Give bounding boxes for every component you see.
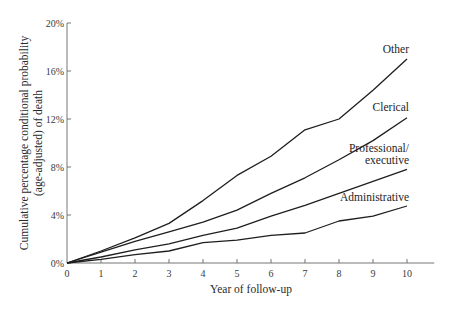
x-tick-label: 7 [303,268,308,279]
x-tick-label: 9 [371,268,376,279]
series-lines [67,59,407,263]
series-label: Clerical [373,101,409,113]
series-line-professional-executive [67,169,407,263]
y-axis-title-line-2: (age-adjusted) of death [32,90,45,196]
y-tick-label: 0% [51,258,64,269]
x-tick-label: 2 [133,268,138,279]
x-tick-label: 6 [269,268,274,279]
x-tick-label: 0 [65,268,70,279]
x-axis-title: Year of follow-up [210,283,292,296]
y-axis-title: Cumulative percentage conditional probab… [18,36,45,251]
series-label: Other [383,43,409,55]
line-chart: 0%4%8%12%16%20% 012345678910 OtherCleric… [0,0,449,309]
y-axis-title-line-1: Cumulative percentage conditional probab… [18,36,31,251]
y-tick-label: 4% [51,210,64,221]
x-tick-label: 10 [402,268,412,279]
x-tick-label: 1 [99,268,104,279]
y-tick-label: 8% [51,162,64,173]
y-axis: 0%4%8%12%16%20% [46,18,71,269]
y-tick-label: 16% [46,66,64,77]
x-tick-label: 4 [201,268,206,279]
series-label: executive [365,154,409,166]
series-line-other [67,59,407,263]
series-label: Administrative [340,191,409,203]
y-tick-label: 12% [46,114,64,125]
series-label: Professional/ [349,142,410,154]
y-tick-label: 20% [46,18,64,29]
x-tick-label: 8 [337,268,342,279]
x-tick-label: 5 [235,268,240,279]
x-tick-label: 3 [167,268,172,279]
series-line-administrative [67,206,407,263]
x-axis: 012345678910 [65,259,435,279]
